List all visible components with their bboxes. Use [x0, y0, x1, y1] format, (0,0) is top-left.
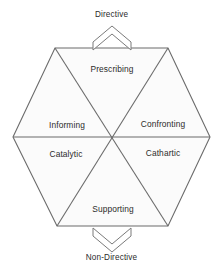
pole-label-directive: Directive [0, 10, 223, 19]
segment-label-cathartic: Cathartic [146, 148, 180, 158]
segment-label-confronting: Confronting [141, 119, 185, 129]
segment-label-catalytic: Catalytic [49, 149, 82, 159]
pole-label-non-directive: Non-Directive [0, 253, 223, 262]
chevron-up-icon [93, 26, 131, 50]
segment-label-informing: Informing [49, 120, 85, 130]
segment-label-prescribing: Prescribing [91, 64, 134, 74]
intervention-hexagon-diagram: Directive Non-Directive Prescribing Info… [0, 0, 223, 274]
segment-label-supporting: Supporting [92, 204, 134, 214]
hexagon-graphic [0, 0, 223, 274]
chevron-down-icon [93, 228, 131, 252]
